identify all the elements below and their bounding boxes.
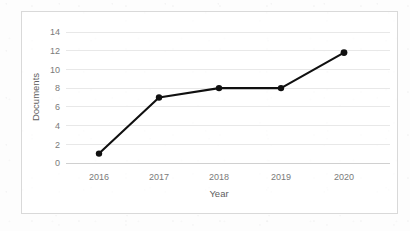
y-tick-8: 8 xyxy=(55,83,60,93)
series-markers[interactable] xyxy=(96,49,348,157)
y-tick-6: 6 xyxy=(55,102,60,112)
x-tick-2016: 2016 xyxy=(89,172,109,182)
y-tick-0: 0 xyxy=(55,158,60,168)
data-point-2020[interactable] xyxy=(341,49,348,56)
y-tick-10: 10 xyxy=(50,65,60,75)
series-line-documents[interactable] xyxy=(99,53,344,154)
y-tick-2: 2 xyxy=(55,140,60,150)
y-axis-tick-labels: 14 12 10 8 6 4 2 0 xyxy=(50,27,60,168)
data-point-2018[interactable] xyxy=(216,85,222,91)
y-axis-title: Documents xyxy=(30,73,41,121)
x-tick-2019: 2019 xyxy=(271,172,291,182)
data-point-2016[interactable] xyxy=(96,150,102,156)
y-tick-14: 14 xyxy=(50,27,60,37)
data-point-2017[interactable] xyxy=(156,94,162,100)
x-tick-2020: 2020 xyxy=(334,172,354,182)
x-axis-title: Year xyxy=(209,188,228,199)
y-tick-12: 12 xyxy=(50,46,60,56)
line-chart[interactable]: 14 12 10 8 6 4 2 0 Documents 2016 2017 2… xyxy=(0,0,410,231)
x-tick-2017: 2017 xyxy=(149,172,169,182)
x-tick-2018: 2018 xyxy=(209,172,229,182)
y-tick-4: 4 xyxy=(55,121,60,131)
data-point-2019[interactable] xyxy=(278,85,284,91)
x-axis-tick-labels: 2016 2017 2018 2019 2020 xyxy=(89,172,354,182)
